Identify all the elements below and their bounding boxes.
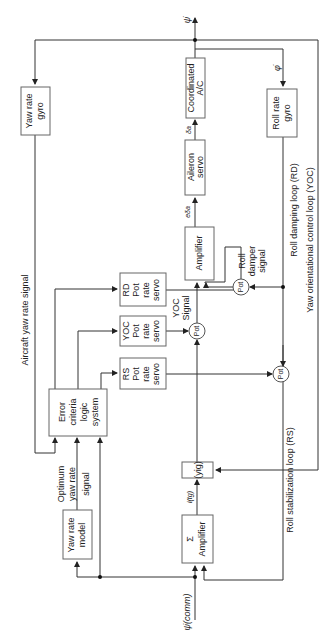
block-roll-rate-gyro: Roll rate gyro [267,89,297,137]
label-phi-dot: φ̇ [272,64,282,71]
svg-text:Σ: Σ [185,536,195,542]
block-sum-amplifier: Σ Amplifier [182,515,213,563]
label-psi-dot-out: ψ̇ [182,16,192,24]
svg-text:servo: servo [151,279,161,301]
svg-text:Amplifier: Amplifier [197,521,207,556]
svg-text:Pot: Pot [131,367,141,381]
svg-text:rate: rate [141,323,151,339]
svg-text:Roll rate: Roll rate [271,96,281,130]
svg-text:signal: signal [81,472,91,496]
svg-text:RS: RS [121,368,131,381]
block-amplifier-upper: Amplifier [185,227,214,280]
svg-text:Amplifier: Amplifier [194,235,204,270]
svg-text:Pot: Pot [193,326,200,337]
pot-yoc: Pot [189,323,205,339]
pot-roll-damper: Pot [233,279,249,295]
yaw-roll-control-block-diagram: Yaw rate gyro Coordinated A/C Roll rate … [0,0,331,637]
block-yoc-pot-rate-servo: YOC Pot rate servo [120,316,166,346]
block-coordinated-ac: Coordinated A/C [186,58,205,118]
svg-text:damper: damper [247,246,257,277]
svg-text:Yaw rate: Yaw rate [24,94,34,129]
block-rs-pot-rate-servo: RS Pot rate servo [120,358,166,389]
svg-text:system: system [90,398,100,427]
svg-text:Error: Error [57,402,67,422]
block-error-criteria-logic-system: Error criteria logic system [49,389,107,436]
svg-text:servo: servo [151,320,161,342]
svg-text:gyro: gyro [35,102,45,120]
block-yaw-rate-gyro: Yaw rate gyro [21,87,50,135]
block-rd-pot-rate-servo: RD Pot rate servo [120,273,166,306]
svg-text:Pot: Pot [277,369,284,380]
block-aileron-servo: Aileron servo [185,140,205,195]
svg-text:gyro: gyro [282,104,292,122]
block-yig: (yig) [182,461,213,479]
svg-text:Signal: Signal [181,295,191,320]
svg-text:criteria: criteria [68,398,78,425]
svg-text:model: model [77,523,87,548]
svg-text:rate: rate [141,282,151,298]
svg-text:servo: servo [195,156,205,178]
svg-text:servo: servo [151,363,161,385]
svg-text:rate: rate [141,366,151,382]
svg-text:YOC: YOC [171,298,181,318]
label-roll-damping-loop: Roll damping loop (RD) [289,163,299,257]
svg-text:RD: RD [121,283,131,296]
svg-text:Pot: Pot [131,324,141,338]
label-yaw-orientational-control-loop: Yaw orientational control loop (YOC) [305,167,315,312]
label-i-tg: i(tg) [186,491,194,503]
label-e-delta-a: eδa [184,206,191,218]
label-psi-dot-comm: ψ̇(comm) [182,593,192,630]
svg-text:signal: signal [257,249,267,273]
svg-text:YOC: YOC [121,321,131,341]
svg-text:Optimum: Optimum [56,466,66,503]
svg-text:Pot: Pot [237,282,244,293]
pot-rs: Pot [273,366,289,382]
label-optimum-yaw-rate-signal: Optimum yaw rate signal [56,466,91,503]
svg-text:A/C: A/C [195,80,205,96]
svg-text:Roll: Roll [237,253,247,269]
svg-text:(yig): (yig) [193,461,203,479]
svg-text:Pot: Pot [131,283,141,297]
svg-text:Yaw rate: Yaw rate [66,518,76,553]
label-yoc-signal: YOC Signal [171,295,191,320]
block-yaw-rate-model: Yaw rate model [63,510,92,559]
svg-text:logic: logic [79,402,89,421]
label-delta-a: δa [185,126,192,134]
svg-text:yaw rate: yaw rate [67,467,77,501]
label-aircraft-yaw-rate-signal: Aircraft yaw rate signal [20,274,30,365]
label-roll-stabilization-loop: Roll stabilization loop (RS) [285,427,295,533]
